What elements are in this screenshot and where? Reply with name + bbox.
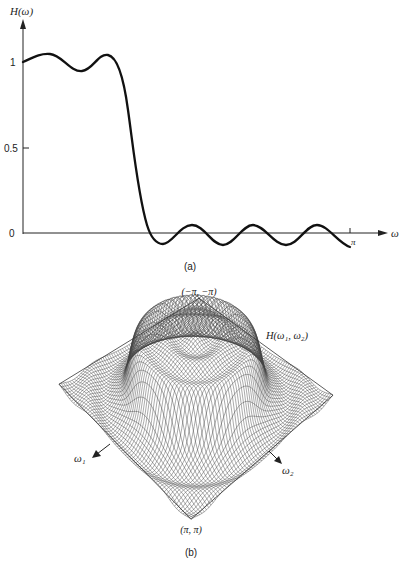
plot-b: (−π, −π) H(ω₁, ω₂) (π, π) (b) ω₁ ω₂ — [59, 286, 333, 558]
w1-axis-line — [97, 444, 110, 454]
w2-label: ω₂ — [282, 464, 294, 476]
top-corner-label: (−π, −π) — [181, 286, 217, 298]
plot-a: H(ω) 1 0.5 0 π ω (a) — [4, 5, 399, 272]
ylabel: H(ω) — [9, 5, 33, 18]
ytick-label-1: 1 — [10, 57, 16, 68]
bottom-corner-label: (π, π) — [180, 524, 202, 536]
w2-axis-line — [269, 451, 277, 459]
x-axis-arrow-icon — [378, 230, 388, 236]
surface-mesh — [59, 295, 333, 519]
xlabel: ω — [391, 227, 399, 239]
caption-b: (b) — [185, 547, 197, 558]
w1-arrow-icon — [92, 450, 101, 458]
surface-label: H(ω₁, ω₂) — [265, 330, 308, 342]
figure-canvas: H(ω) 1 0.5 0 π ω (a) (−π, −π) H(ω₁, ω₂) … — [0, 0, 405, 566]
response-curve — [23, 54, 350, 247]
caption-a: (a) — [184, 261, 196, 272]
w1-label: ω₁ — [74, 452, 86, 464]
ytick-label-05: 0.5 — [4, 143, 18, 154]
xtick-label-pi: π — [351, 237, 356, 247]
mesh-lines — [59, 295, 333, 519]
ytick-label-0: 0 — [9, 228, 15, 239]
y-axis-arrow-icon — [20, 19, 26, 29]
